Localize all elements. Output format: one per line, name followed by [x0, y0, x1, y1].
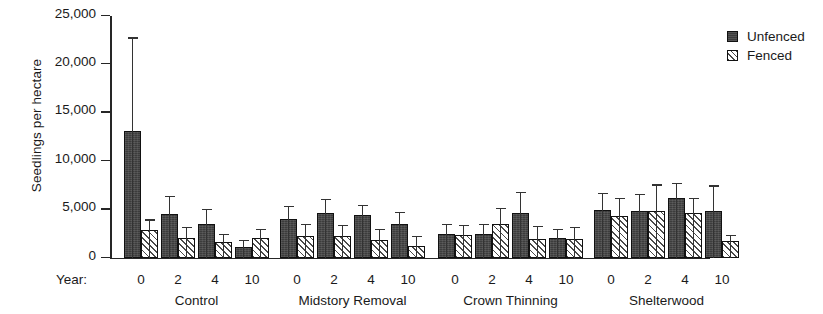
- y-axis-title: Seedlings per hectare: [29, 6, 44, 246]
- error-bar: [500, 208, 501, 258]
- error-bar-cap: [182, 227, 192, 228]
- error-bar-cap: [358, 205, 368, 206]
- legend-swatch-fenced: [727, 50, 738, 61]
- error-bar: [483, 224, 484, 258]
- error-bar: [379, 229, 380, 258]
- error-bar-cap: [516, 192, 526, 193]
- x-axis-year-label: 10: [714, 272, 729, 287]
- y-axis-tick-label: 10,000: [55, 151, 96, 166]
- error-bar: [305, 224, 306, 258]
- error-bar-cap: [219, 234, 229, 235]
- y-axis-line: [110, 16, 112, 258]
- error-bar: [713, 185, 714, 258]
- error-bar: [676, 183, 677, 259]
- error-bar-cap: [128, 37, 138, 38]
- x-axis-year-label: 2: [488, 272, 496, 287]
- y-axis-tick-label: 15,000: [55, 102, 96, 117]
- legend-label: Unfenced: [747, 29, 805, 44]
- x-axis-year-label: 0: [451, 272, 459, 287]
- error-bar: [260, 229, 261, 258]
- error-bar-cap: [598, 193, 608, 194]
- error-bar: [169, 196, 170, 258]
- y-axis-tick-label: 0: [88, 248, 96, 263]
- error-bar-cap: [726, 235, 736, 236]
- error-bar-cap: [652, 184, 662, 185]
- error-bar: [149, 219, 150, 258]
- x-axis-year-label: 4: [211, 272, 219, 287]
- error-bar-cap: [321, 199, 331, 200]
- error-bar: [416, 236, 417, 258]
- x-axis-year-label: 4: [367, 272, 375, 287]
- error-bar: [325, 199, 326, 258]
- error-bar-cap: [459, 225, 469, 226]
- x-axis-year-label: 4: [681, 272, 689, 287]
- error-bar-cap: [496, 208, 506, 209]
- year-axis-prefix: Year:: [56, 272, 87, 287]
- x-axis-year-label: 10: [400, 272, 415, 287]
- error-bar: [288, 206, 289, 258]
- bar-chart-figure: Seedlings per hectare 05,00010,00015,000…: [0, 0, 823, 314]
- error-bar: [132, 37, 133, 258]
- error-bar: [520, 192, 521, 258]
- error-bar-cap: [672, 183, 682, 184]
- error-bar: [186, 227, 187, 258]
- error-bar-cap: [239, 240, 249, 241]
- error-bar-cap: [395, 212, 405, 213]
- error-bar-cap: [338, 225, 348, 226]
- error-bar-cap: [301, 224, 311, 225]
- x-axis-year-label: 0: [607, 272, 615, 287]
- legend-swatch-unfenced: [727, 31, 738, 42]
- error-bar-cap: [412, 236, 422, 237]
- y-axis-tick-label: 20,000: [55, 54, 96, 69]
- error-bar-cap: [570, 227, 580, 228]
- error-bar-cap: [479, 224, 489, 225]
- error-bar: [656, 184, 657, 258]
- error-bar-cap: [635, 194, 645, 195]
- error-bar-cap: [533, 226, 543, 227]
- error-bar: [362, 205, 363, 258]
- x-axis-year-label: 2: [174, 272, 182, 287]
- error-bar: [639, 194, 640, 258]
- x-axis-year-label: 10: [244, 272, 259, 287]
- y-axis-tick: 5,000: [101, 208, 110, 210]
- legend-item-unfenced: Unfenced: [727, 27, 805, 46]
- error-bar-cap: [553, 229, 563, 230]
- x-axis-group-label-control: Control: [175, 293, 219, 308]
- x-axis-year-label: 2: [330, 272, 338, 287]
- error-bar-cap: [284, 206, 294, 207]
- y-axis-tick: 0: [101, 257, 110, 259]
- error-bar: [557, 229, 558, 258]
- legend-label: Fenced: [747, 48, 792, 63]
- error-bar: [537, 226, 538, 258]
- plot-area: 05,00010,00015,00020,00025,000: [110, 16, 710, 258]
- legend-item-fenced: Fenced: [727, 46, 805, 65]
- x-axis-group-label-shelterwood: Shelterwood: [629, 293, 704, 308]
- error-bar: [223, 234, 224, 258]
- x-axis-year-label: 0: [293, 272, 301, 287]
- error-bar: [243, 240, 244, 258]
- error-bar: [730, 235, 731, 258]
- error-bar-cap: [442, 224, 452, 225]
- error-bar-cap: [145, 219, 155, 220]
- error-bar: [206, 209, 207, 258]
- y-axis-tick: 15,000: [101, 111, 110, 113]
- error-bar-cap: [202, 209, 212, 210]
- error-bar: [602, 193, 603, 258]
- x-axis-year-label: 4: [525, 272, 533, 287]
- error-bar-cap: [375, 229, 385, 230]
- error-bar: [574, 227, 575, 258]
- error-bar-cap: [165, 196, 175, 197]
- error-bar: [399, 212, 400, 258]
- error-bar-cap: [689, 198, 699, 199]
- y-axis-tick-label: 25,000: [55, 6, 96, 21]
- error-bar-cap: [256, 229, 266, 230]
- error-bar-cap: [615, 198, 625, 199]
- error-bar: [619, 198, 620, 258]
- x-axis-year-label: 2: [644, 272, 652, 287]
- error-bar: [342, 225, 343, 258]
- x-axis-group-label-crown-thinning: Crown Thinning: [463, 293, 557, 308]
- y-axis-tick: 25,000: [101, 15, 110, 17]
- y-axis-tick-label: 5,000: [62, 199, 96, 214]
- x-axis-year-label: 10: [558, 272, 573, 287]
- y-axis-tick: 10,000: [101, 160, 110, 162]
